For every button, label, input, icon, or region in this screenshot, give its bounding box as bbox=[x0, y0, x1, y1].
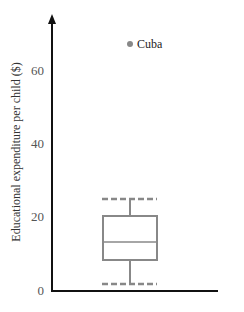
outlier-point bbox=[127, 41, 133, 47]
outlier-label: Cuba bbox=[137, 37, 163, 51]
y-tick-20: 20 bbox=[31, 209, 44, 224]
iqr-box bbox=[103, 216, 157, 260]
box-plot bbox=[102, 199, 157, 284]
y-tick-60: 60 bbox=[31, 63, 44, 78]
boxplot-chart: 0 20 40 60 Educational expenditure per c… bbox=[0, 0, 244, 312]
y-tick-40: 40 bbox=[31, 136, 44, 151]
y-axis-label: Educational expenditure per child ($) bbox=[9, 62, 23, 241]
y-tick-0: 0 bbox=[38, 283, 45, 298]
y-axis-arrow-icon bbox=[48, 14, 56, 24]
